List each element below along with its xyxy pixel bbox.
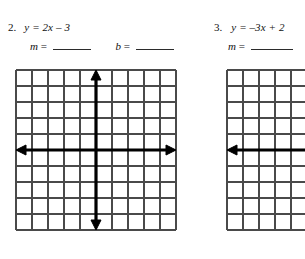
- problem-3-m-equals: =: [239, 40, 245, 52]
- problem-3-number: 3.: [214, 21, 222, 33]
- problem-2-b-blank[interactable]: [136, 38, 174, 50]
- problem-2-b-equals: =: [124, 40, 130, 52]
- x-axis-arrow-left: [16, 145, 26, 155]
- problem-2-b-label: b: [115, 40, 121, 52]
- problem-3-m-label: m: [228, 40, 236, 52]
- problem-2-equation-line: 2. y = 2x – 3: [8, 20, 70, 34]
- y-axis-arrow-down: [91, 220, 101, 230]
- problem-3: 3. y = –3x + 2: [214, 20, 285, 34]
- x-axis-arrow-right: [166, 145, 176, 155]
- x-axis-arrow-left: [227, 145, 237, 155]
- problem-2-m-blank[interactable]: [53, 38, 91, 50]
- y-axis-arrow-up: [91, 70, 101, 80]
- problem-2-m-equals: =: [41, 40, 47, 52]
- problem-2-answers: m = b =: [30, 38, 174, 53]
- problem-3-equation-text: y = –3x + 2: [231, 21, 284, 33]
- problem-2-equation: y = 2x – 3: [24, 21, 70, 33]
- problem-3-equation-line: 3. y = –3x + 2: [214, 20, 285, 34]
- problem-3-answers: m =: [228, 38, 293, 53]
- problem-2: 2. y = 2x – 3: [8, 20, 70, 34]
- worksheet-page: 2. y = 2x – 3 m = b =: [0, 0, 305, 259]
- problem-2-equation-text: y = 2x – 3: [24, 21, 70, 33]
- problem-3-coordinate-grid: [226, 69, 305, 231]
- problem-2-number: 2.: [8, 21, 16, 33]
- problem-3-answer-m: m =: [228, 38, 293, 53]
- problem-2-answer-b: b =: [115, 38, 173, 53]
- axes: [227, 145, 305, 155]
- problem-2-m-label: m: [30, 40, 38, 52]
- problem-3-m-blank[interactable]: [251, 38, 293, 50]
- problem-2-coordinate-grid: [15, 69, 177, 231]
- problem-3-equation: y = –3x + 2: [231, 21, 284, 33]
- axes: [16, 70, 176, 230]
- problem-2-answer-m: m =: [30, 38, 91, 53]
- problem-2-grid-svg: [15, 69, 177, 231]
- problem-3-grid-svg: [226, 69, 305, 231]
